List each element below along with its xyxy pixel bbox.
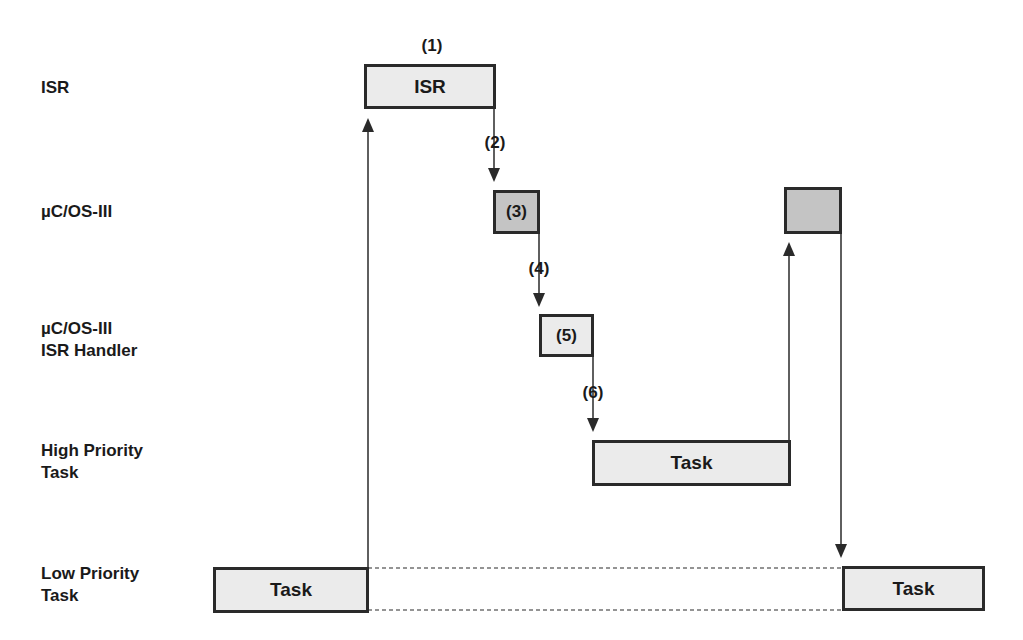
low-priority-task-box-right: Task xyxy=(842,566,985,611)
arrowhead-down-4 xyxy=(533,293,545,307)
step-label-4: (4) xyxy=(529,259,550,279)
isr-handler-box: (5) xyxy=(539,314,594,357)
arrowhead-up-isr xyxy=(362,118,374,132)
kernel-step-label: (3) xyxy=(506,202,527,222)
isr-box: ISR xyxy=(364,64,496,109)
low-priority-task-left-label: Task xyxy=(270,579,312,601)
connector-lines xyxy=(0,0,1023,640)
arrowhead-up-kernel xyxy=(783,242,795,256)
arrowhead-down-6 xyxy=(587,418,599,432)
isr-box-label: ISR xyxy=(414,76,446,98)
isr-handler-label: (5) xyxy=(556,326,577,346)
step-label-1: (1) xyxy=(422,36,443,56)
high-priority-task-label: Task xyxy=(671,452,713,474)
arrowhead-down-low xyxy=(835,544,847,558)
low-priority-task-right-label: Task xyxy=(893,578,935,600)
low-priority-task-box-left: Task xyxy=(213,567,369,613)
arrowhead-down-2 xyxy=(488,168,500,182)
high-priority-task-box: Task xyxy=(592,440,791,486)
step-label-2: (2) xyxy=(485,133,506,153)
step-label-6: (6) xyxy=(583,383,604,403)
kernel-step-box: (3) xyxy=(493,190,540,234)
kernel-return-box xyxy=(784,187,842,234)
